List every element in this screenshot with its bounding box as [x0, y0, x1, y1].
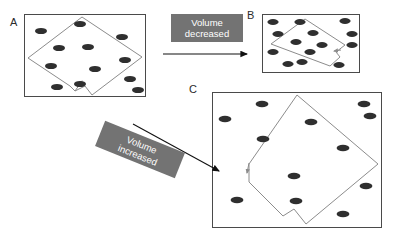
- particle: [307, 30, 318, 36]
- banner-line-1: Volume: [191, 17, 223, 28]
- particle: [346, 31, 357, 37]
- particle: [290, 198, 303, 205]
- particle: [89, 66, 101, 72]
- banner-line-2: decreased: [185, 28, 229, 39]
- particle: [290, 39, 301, 45]
- particle-group-a: [35, 21, 144, 93]
- piston-outline-b: [271, 19, 345, 66]
- particle: [360, 183, 373, 190]
- particle: [346, 42, 357, 48]
- particle: [296, 59, 307, 65]
- particle: [337, 211, 350, 218]
- particle: [272, 31, 283, 37]
- piston-outline-c: [249, 95, 378, 224]
- particle: [257, 136, 270, 143]
- particle: [119, 57, 131, 63]
- particle: [45, 63, 57, 69]
- particle-group-b: [267, 18, 357, 68]
- particle: [267, 19, 278, 25]
- figure-canvas: A B C: [0, 0, 399, 237]
- particle: [53, 45, 65, 51]
- particle: [333, 62, 344, 68]
- particle: [305, 119, 318, 126]
- particle: [74, 21, 86, 27]
- particle-group-c: [219, 101, 377, 218]
- particle: [82, 44, 94, 50]
- particle: [267, 49, 278, 55]
- particle: [282, 61, 293, 67]
- transition-banner-volume-decreased: Volume decreased: [171, 14, 243, 42]
- particle: [116, 34, 128, 40]
- particle: [132, 87, 144, 93]
- particle: [51, 84, 63, 90]
- particle: [74, 81, 86, 87]
- particle: [219, 116, 232, 123]
- particle: [288, 173, 301, 180]
- particle: [256, 101, 269, 108]
- particle: [231, 197, 244, 204]
- particle: [294, 19, 305, 25]
- particle: [124, 76, 136, 82]
- particle: [358, 101, 371, 108]
- particle: [337, 145, 350, 152]
- piston-arrow-b: [334, 50, 341, 51]
- particle: [304, 49, 315, 55]
- particle: [364, 113, 377, 120]
- particle: [35, 28, 47, 34]
- particle: [316, 42, 327, 48]
- particle: [339, 18, 350, 24]
